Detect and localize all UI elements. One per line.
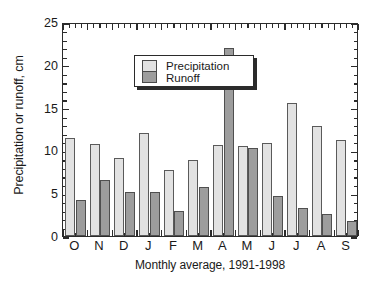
bar-precipitation-d-2 bbox=[114, 158, 124, 236]
legend-swatch-group bbox=[142, 60, 157, 83]
bar-runoff-j-8 bbox=[273, 196, 283, 236]
y-axis-tick-labels: 0510152025 bbox=[14, 23, 58, 237]
x-axis-label: Monthly average, 1991-1998 bbox=[59, 258, 361, 272]
bar-group-d-2 bbox=[114, 24, 135, 236]
x-tick-label-0: O bbox=[62, 239, 86, 252]
x-tick-label-3: J bbox=[136, 239, 160, 252]
bar-runoff-o-0 bbox=[76, 200, 86, 236]
bar-precipitation-m-7 bbox=[238, 146, 248, 236]
x-tick-label-4: F bbox=[161, 239, 185, 252]
bar-precipitation-a-6 bbox=[213, 145, 223, 236]
bar-runoff-m-7 bbox=[248, 148, 258, 236]
bar-precipitation-j-8 bbox=[262, 143, 272, 236]
bar-runoff-m-5 bbox=[199, 187, 209, 236]
y-tick-label-25: 25 bbox=[18, 17, 58, 30]
x-tick-label-10: A bbox=[309, 239, 333, 252]
x-tick-label-8: J bbox=[260, 239, 284, 252]
bar-precipitation-j-9 bbox=[287, 103, 297, 236]
bar-group-n-1 bbox=[90, 24, 111, 236]
legend-label-precipitation: Precipitation bbox=[166, 61, 229, 73]
legend-swatch-runoff bbox=[143, 72, 156, 83]
bar-precipitation-n-1 bbox=[90, 144, 100, 236]
bar-precipitation-j-3 bbox=[139, 133, 149, 236]
bar-precipitation-f-4 bbox=[164, 170, 174, 236]
chart-legend: Precipitation Runoff bbox=[134, 55, 254, 87]
y-tick-label-5: 5 bbox=[18, 188, 58, 201]
bar-precipitation-o-0 bbox=[65, 138, 75, 236]
x-tick-label-7: M bbox=[235, 239, 259, 252]
x-tick-label-5: M bbox=[186, 239, 210, 252]
bar-runoff-a-10 bbox=[322, 214, 332, 236]
x-tick-major bbox=[358, 230, 359, 236]
bar-group-j-8 bbox=[262, 24, 283, 236]
bar-group-a-10 bbox=[312, 24, 333, 236]
y-tick-label-0: 0 bbox=[18, 231, 58, 244]
plot-area: Precipitation Runoff bbox=[62, 23, 358, 237]
x-axis-tick-labels: ONDJFMAMJJAS bbox=[62, 239, 358, 257]
bar-precipitation-a-10 bbox=[312, 126, 322, 236]
bar-runoff-f-4 bbox=[174, 211, 184, 236]
bar-runoff-n-1 bbox=[100, 180, 110, 236]
x-tick-major bbox=[358, 24, 359, 30]
bar-group-j-9 bbox=[287, 24, 308, 236]
x-tick-label-2: D bbox=[112, 239, 136, 252]
bar-group-o-0 bbox=[65, 24, 86, 236]
x-tick-label-6: A bbox=[210, 239, 234, 252]
bar-precipitation-s-11 bbox=[336, 140, 346, 236]
bar-precipitation-m-5 bbox=[188, 160, 198, 236]
legend-swatch-precipitation bbox=[143, 61, 156, 72]
chart-figure: Precipitation or runoff, cm 0510152025 P… bbox=[0, 0, 372, 284]
x-tick-label-11: S bbox=[334, 239, 358, 252]
bar-runoff-s-11 bbox=[347, 221, 357, 236]
y-tick-label-10: 10 bbox=[18, 145, 58, 158]
bar-runoff-d-2 bbox=[125, 192, 135, 236]
legend-label-runoff: Runoff bbox=[166, 73, 200, 85]
x-tick-label-1: N bbox=[87, 239, 111, 252]
y-tick-label-15: 15 bbox=[18, 103, 58, 116]
x-tick-label-9: J bbox=[284, 239, 308, 252]
bar-group-s-11 bbox=[336, 24, 357, 236]
bar-runoff-j-3 bbox=[150, 192, 160, 236]
y-tick-label-20: 20 bbox=[18, 60, 58, 73]
bar-runoff-j-9 bbox=[298, 208, 308, 236]
